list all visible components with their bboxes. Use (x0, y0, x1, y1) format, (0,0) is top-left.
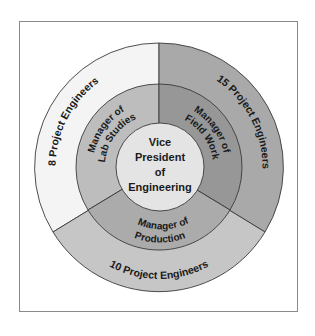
center-label-line3: of (155, 166, 166, 178)
center-label-line4: Engineering (128, 181, 192, 193)
center-label-line1: Vice (149, 136, 171, 148)
center-label-line2: President (135, 151, 185, 163)
org-diagram: 8 Project Engineers 15 Project Engineers… (0, 0, 315, 336)
